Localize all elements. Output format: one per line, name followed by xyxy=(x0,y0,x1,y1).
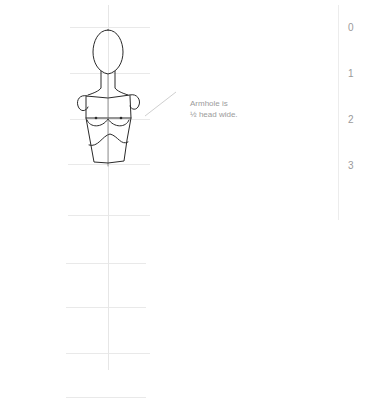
croquis-figure xyxy=(0,0,365,404)
torso-left-side xyxy=(86,97,108,163)
left-bust-point xyxy=(95,117,98,120)
annotation-line-2: ½ head wide. xyxy=(190,109,238,120)
annotation-line-1: Armhole is xyxy=(190,98,238,109)
torso-right-side xyxy=(108,96,131,163)
right-bust-point xyxy=(120,117,123,120)
waist-curve xyxy=(89,134,128,145)
annotation-leader-line xyxy=(145,92,176,116)
armhole-annotation: Armhole is ½ head wide. xyxy=(190,98,238,120)
croquis-diagram: 0 1 2 3 xyxy=(0,0,365,404)
head-outline xyxy=(93,30,123,74)
neck-left xyxy=(88,71,101,95)
neck-right xyxy=(115,71,128,95)
right-shoulder-joint xyxy=(130,95,140,110)
